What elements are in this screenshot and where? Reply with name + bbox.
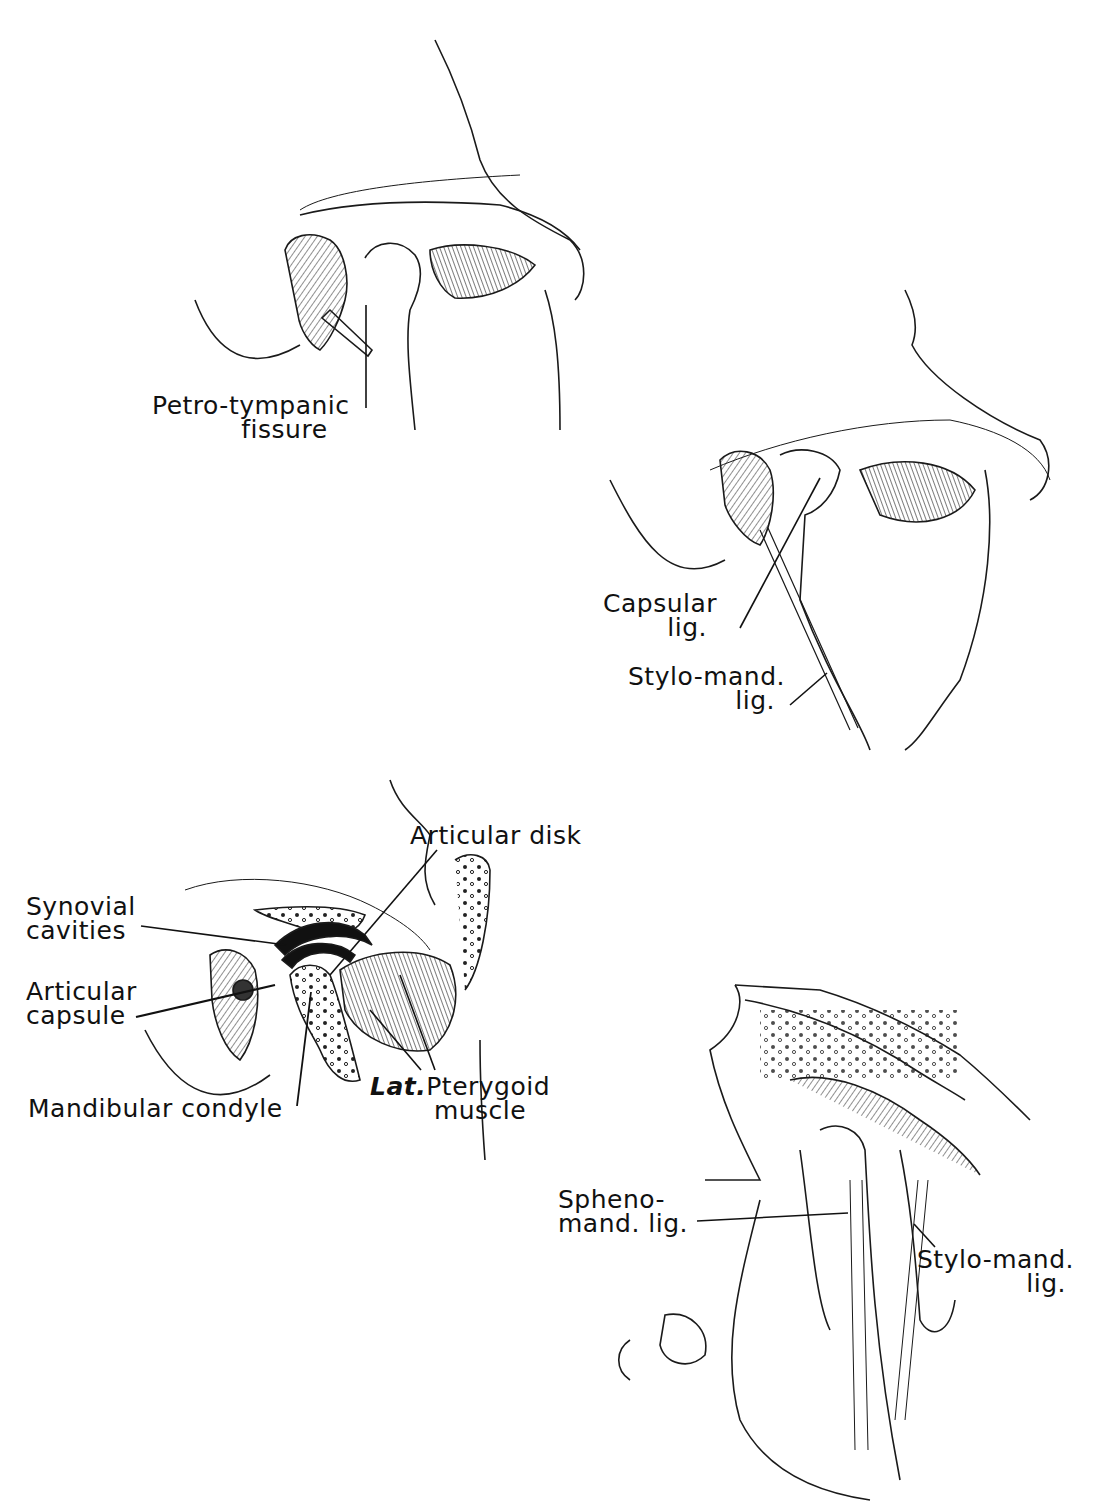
label-synovial-cavities: Synovial cavities (26, 895, 136, 943)
label-line: muscle (370, 1099, 550, 1123)
figure-bottom-right (619, 985, 1030, 1500)
label-line: mand. lig. (558, 1212, 688, 1236)
label-line: lig. (917, 1272, 1074, 1296)
label-line: Articular disk (410, 824, 582, 848)
label-articular-disk: Articular disk (410, 824, 582, 848)
label-line: capsule (26, 1004, 137, 1028)
label-line: Mandibular condyle (28, 1097, 283, 1121)
label-capsular-lig: Capsular lig. (603, 592, 717, 640)
label-line: lig. (603, 616, 717, 640)
label-stylo-mand-lig-bottom: Stylo-mand. lig. (917, 1248, 1074, 1296)
label-line: cavities (26, 919, 136, 943)
label-line: lig. (628, 689, 785, 713)
label-stylo-mand-lig-top: Stylo-mand. lig. (628, 665, 785, 713)
label-spheno-mand-lig: Spheno- mand. lig. (558, 1188, 688, 1236)
label-lat-pterygoid-muscle: Lat.Pterygoid muscle (370, 1075, 550, 1123)
label-articular-capsule: Articular capsule (26, 980, 137, 1028)
label-line: fissure (152, 418, 350, 442)
label-mandibular-condyle: Mandibular condyle (28, 1097, 283, 1121)
figure-top-left (195, 40, 584, 430)
label-petro-tympanic-fissure: Petro-tympanic fissure (152, 394, 350, 442)
label-prefix: Lat. (370, 1072, 426, 1101)
